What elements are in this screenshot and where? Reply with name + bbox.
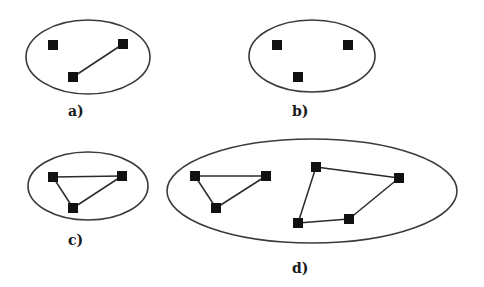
graph-node-square — [118, 39, 128, 49]
panel-c: c) — [28, 152, 148, 248]
panel-label: c) — [68, 232, 83, 248]
graph-edge — [298, 219, 349, 223]
panel-b: b) — [249, 20, 375, 119]
graph-node-square — [68, 72, 78, 82]
component-boundary-ellipse — [249, 20, 375, 92]
graph-node-square — [48, 40, 58, 50]
graph-node-square — [211, 203, 221, 213]
graph-node-square — [48, 172, 58, 182]
component-boundary-ellipse — [28, 152, 148, 220]
graph-node-square — [311, 162, 321, 172]
component-boundary-ellipse — [167, 139, 457, 243]
component-boundary-ellipse — [26, 20, 150, 94]
graph-edge — [298, 167, 316, 223]
graph-edge — [73, 176, 122, 208]
graph-node-square — [343, 40, 353, 50]
graph-edge — [316, 167, 399, 178]
graph-node-square — [190, 171, 200, 181]
graph-edge — [349, 178, 399, 219]
panel-d: d) — [167, 139, 457, 276]
graph-node-square — [68, 203, 78, 213]
graph-edge — [53, 176, 122, 177]
graph-node-square — [272, 40, 282, 50]
graph-node-square — [344, 214, 354, 224]
panel-a: a) — [26, 20, 150, 119]
panel-label: b) — [292, 103, 308, 119]
graph-node-square — [261, 171, 271, 181]
panel-label: d) — [292, 260, 308, 276]
graph-node-square — [117, 171, 127, 181]
graph-node-square — [394, 173, 404, 183]
panel-label: a) — [68, 103, 84, 119]
graph-node-square — [293, 72, 303, 82]
graph-components-diagram: a) b) c) d) — [0, 0, 484, 287]
graph-node-square — [293, 218, 303, 228]
graph-edge — [73, 44, 123, 77]
graph-edge — [216, 176, 266, 208]
